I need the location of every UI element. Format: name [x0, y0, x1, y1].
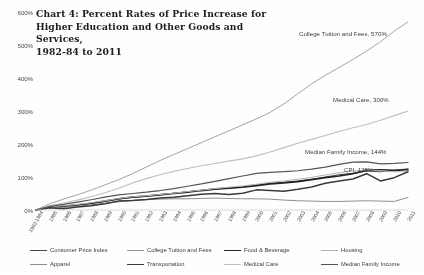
x-axis-tick: 1992 [144, 210, 155, 222]
y-axis-tick: 0% [24, 207, 33, 214]
legend-swatch [321, 250, 338, 251]
y-axis-tick: 600% [18, 9, 33, 16]
legend-label: Consumer Price Index [50, 247, 108, 253]
x-axis-tick: 2002 [282, 210, 293, 222]
y-axis-tick: 500% [18, 42, 33, 49]
legend-swatch [224, 250, 241, 251]
legend-swatch [224, 264, 241, 265]
legend-item[interactable]: Consumer Price Index [30, 247, 127, 253]
legend-swatch [30, 250, 47, 251]
x-axis-tick: 2008 [364, 210, 375, 222]
y-axis: 0%100%200%300%400%500%600% [0, 0, 36, 212]
plot-area [36, 12, 408, 210]
legend-label: Transportation [147, 261, 184, 267]
y-axis-tick: 200% [18, 141, 33, 148]
x-axis-tick: 2000 [254, 210, 265, 222]
x-axis-tick: 1999 [240, 210, 251, 222]
x-axis-tick: 2005 [323, 210, 334, 222]
legend-label: Housing [341, 247, 362, 253]
legend-item[interactable]: Medical Care [224, 261, 321, 267]
y-axis-tick: 400% [18, 75, 33, 82]
legend-item[interactable]: Transportation [127, 261, 224, 267]
legend-item[interactable]: Median Family Income [321, 261, 418, 267]
x-axis-tick: 2010 [392, 210, 403, 222]
x-axis-tick: 2007 [350, 210, 361, 222]
x-axis-tick: 1993 [158, 210, 169, 222]
x-axis-tick: 1986 [61, 210, 72, 222]
x-axis-tick: 1991 [130, 210, 141, 222]
x-axis-tick: 1997 [213, 210, 224, 222]
x-axis: 1982-19841985198619871988198919901991199… [36, 210, 408, 244]
x-axis-tick: 1996 [199, 210, 210, 222]
legend-label: Medical Care [244, 261, 278, 267]
legend-item[interactable]: Housing [321, 247, 418, 253]
series-annotation: Median Family Income, 144% [305, 148, 387, 155]
x-axis-tick: 1987 [75, 210, 86, 222]
chart-legend: Consumer Price IndexCollege Tuition and … [30, 243, 418, 271]
series-line [36, 22, 408, 210]
series-annotation: College Tuition and Fees, 570% [299, 30, 387, 37]
series-canvas [36, 12, 408, 210]
legend-swatch [30, 264, 47, 265]
x-axis-tick: 1988 [89, 210, 100, 222]
x-axis-tick: 2011 [406, 210, 416, 222]
series-line [36, 111, 408, 210]
x-axis-tick: 1989 [102, 210, 113, 222]
x-axis-tick: 2004 [309, 210, 320, 222]
legend-swatch [127, 250, 144, 251]
x-axis-tick: 1995 [185, 210, 196, 222]
series-annotation: Medical Care, 300% [333, 96, 389, 103]
y-axis-tick: 300% [18, 108, 33, 115]
x-axis-tick: 2006 [337, 210, 348, 222]
x-axis-tick: 1990 [116, 210, 127, 222]
x-axis-tick: 1998 [226, 210, 237, 222]
x-axis-tick: 2009 [378, 210, 389, 222]
x-axis-tick: 2003 [295, 210, 306, 222]
legend-item[interactable]: Food & Beverage [224, 247, 321, 253]
x-axis-tick: 1994 [171, 210, 182, 222]
legend-swatch [321, 264, 338, 265]
legend-label: Food & Beverage [244, 247, 289, 253]
x-axis-tick: 1985 [47, 210, 58, 222]
x-axis-tick: 2001 [268, 210, 279, 222]
legend-label: College Tuition and Fees [147, 247, 212, 253]
chart-container: Chart 4: Percent Rates of Price Increase… [0, 0, 424, 275]
y-axis-tick: 100% [18, 174, 33, 181]
legend-label: Apparel [50, 261, 70, 267]
legend-swatch [127, 264, 144, 265]
legend-item[interactable]: College Tuition and Fees [127, 247, 224, 253]
series-annotation: CPI, 125% [344, 166, 374, 173]
legend-label: Median Family Income [341, 261, 400, 267]
legend-item[interactable]: Apparel [30, 261, 127, 267]
